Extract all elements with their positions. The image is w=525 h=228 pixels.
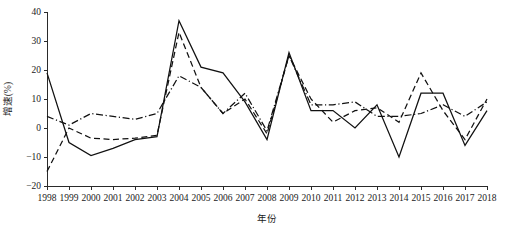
x-tick-label: 2006 [214, 193, 233, 203]
y-axis-title: 增速(%) [2, 82, 14, 116]
x-tick-label: 2005 [192, 193, 211, 203]
y-tick-label: 0 [36, 123, 41, 133]
series-lines [47, 21, 487, 172]
x-tick-label: 2011 [324, 193, 343, 203]
x-tick-label: 2000 [82, 193, 101, 203]
x-tick-label: 1999 [60, 193, 79, 203]
x-tick-label: 2014 [390, 193, 409, 203]
x-tick-label: 2003 [148, 193, 167, 203]
y-tick-label: 40 [32, 7, 42, 17]
x-axis-ticks: 1998199920002001200220032004200520062007… [38, 186, 497, 203]
x-tick-label: 2018 [478, 193, 497, 203]
x-tick-label: 2015 [412, 193, 431, 203]
x-tick-label: 2013 [368, 193, 387, 203]
line-chart: 403020100−10−20 199819992000200120022003… [0, 0, 525, 228]
y-tick-label: 10 [32, 94, 42, 104]
y-tick-label: −20 [26, 181, 41, 191]
x-tick-label: 2016 [434, 193, 453, 203]
series-line-solid [47, 21, 487, 157]
x-tick-label: 2012 [346, 193, 365, 203]
y-axis-ticks: 403020100−10−20 [26, 7, 47, 191]
x-tick-label: 2008 [258, 193, 277, 203]
y-tick-label: 20 [32, 65, 42, 75]
x-axis-title: 年份 [257, 213, 277, 224]
y-tick-label: 30 [32, 36, 42, 46]
x-tick-label: 2002 [126, 193, 145, 203]
x-tick-label: 1998 [38, 193, 57, 203]
chart-canvas: 403020100−10−20 199819992000200120022003… [0, 0, 525, 228]
x-tick-label: 2017 [456, 193, 475, 203]
y-tick-label: −10 [26, 152, 41, 162]
series-line-dashed [47, 32, 487, 171]
x-tick-label: 2009 [280, 193, 299, 203]
x-tick-label: 2001 [104, 193, 123, 203]
x-tick-label: 2010 [302, 193, 321, 203]
x-tick-label: 2007 [236, 193, 255, 203]
x-tick-label: 2004 [170, 193, 189, 203]
